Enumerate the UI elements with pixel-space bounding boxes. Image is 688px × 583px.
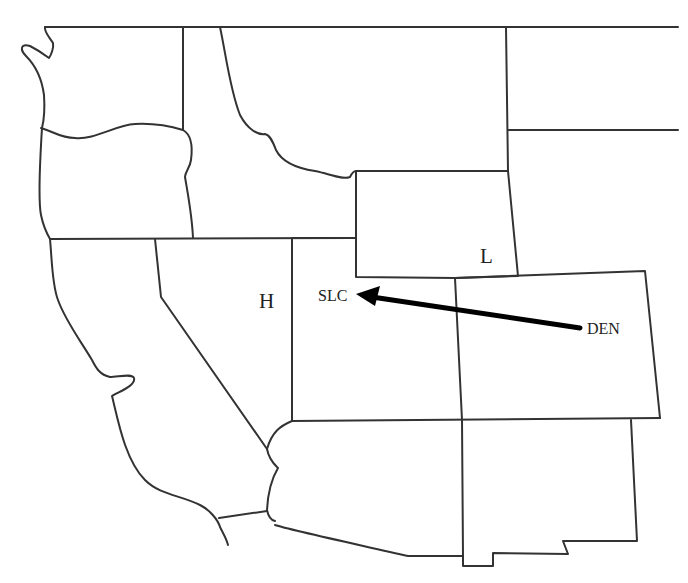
origin-city-label: DEN: [587, 321, 620, 337]
or-id-border: [183, 130, 193, 238]
ut-co-az-nm-border: [455, 278, 463, 556]
weather-map: H L SLC DEN: [0, 0, 688, 583]
ca-nv-border: [155, 239, 267, 449]
wyoming-border: [356, 171, 518, 278]
new-mexico-border: [463, 420, 637, 566]
four-corners-latitude: [292, 418, 660, 421]
az-mexico-border: [275, 525, 463, 556]
ca-az-border: [267, 421, 292, 521]
washington-coast: [22, 27, 53, 128]
wa-or-border: [41, 124, 183, 138]
mt-nd-border: [506, 27, 508, 171]
or-ca-coast: [39, 128, 228, 545]
id-mt-border: [220, 27, 356, 178]
arrow-left-icon: [356, 286, 580, 328]
high-pressure-label: H: [259, 291, 274, 312]
low-pressure-label: L: [480, 246, 493, 267]
colorado-border: [455, 271, 660, 418]
destination-city-label: SLC: [318, 288, 347, 304]
ca-mexico-border: [219, 511, 267, 518]
